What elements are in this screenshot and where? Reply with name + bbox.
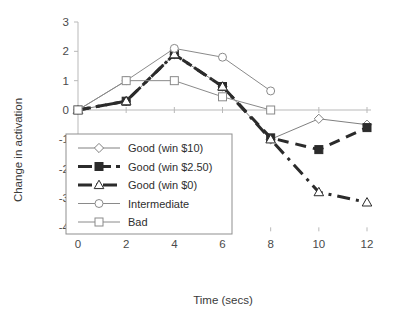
x-tick-label: 6 (219, 238, 225, 250)
x-tick-label: 12 (361, 238, 374, 250)
data-point-marker (122, 77, 130, 85)
y-tick-label: 2 (63, 45, 69, 57)
y-tick-label: 1 (63, 75, 69, 87)
data-point-marker (219, 53, 227, 61)
y-tick-label: 3 (63, 16, 69, 28)
y-axis-title: Change in activation (12, 98, 24, 202)
legend-marker-sample (95, 218, 103, 226)
chart-canvas: 3210-1-2-3-4 024681012 Time (secs) Chang… (0, 0, 396, 319)
legend-marker-sample (95, 200, 103, 208)
data-point-marker (267, 87, 275, 95)
x-tick-label: 0 (75, 238, 81, 250)
data-point-marker (74, 106, 82, 114)
legend-marker-sample (95, 163, 103, 171)
x-axis-title: Time (secs) (193, 294, 253, 306)
activation-time-line-chart: 3210-1-2-3-4 024681012 Time (secs) Chang… (0, 0, 396, 319)
data-point-marker (363, 124, 371, 132)
data-point-marker (219, 93, 227, 101)
legend: Good (win $10)Good (win $2.50)Good (win … (66, 134, 232, 234)
data-point-marker (267, 106, 275, 114)
data-point-marker (362, 198, 372, 206)
data-point-marker (315, 146, 323, 154)
legend-item-label: Intermediate (128, 198, 189, 210)
legend-item-label: Good (win $0) (128, 179, 197, 191)
data-point-marker (170, 44, 178, 52)
x-axis-tick-labels: 024681012 (75, 238, 374, 250)
legend-item-label: Good (win $10) (128, 142, 203, 154)
x-tick-label: 8 (267, 238, 273, 250)
data-point-marker (314, 114, 323, 123)
legend-item-good-win-2-50[interactable]: Good (win $2.50) (78, 161, 212, 173)
legend-item-label: Good (win $2.50) (128, 161, 212, 173)
x-tick-label: 2 (123, 238, 129, 250)
y-tick-label: 0 (63, 104, 69, 116)
data-point-marker (170, 77, 178, 85)
legend-item-label: Bad (128, 216, 148, 228)
x-tick-label: 4 (171, 238, 178, 250)
x-tick-label: 10 (312, 238, 325, 250)
